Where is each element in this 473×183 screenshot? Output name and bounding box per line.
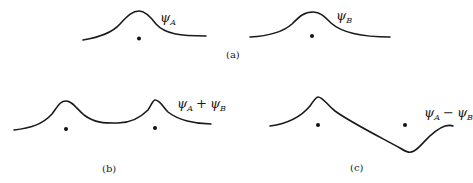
sum-label: ψA+ψB <box>177 96 226 113</box>
panel-b-sum: ψA+ψB <box>14 96 226 131</box>
panel-a-psi-b: ψB <box>250 8 390 38</box>
nucleus-a-dot <box>137 37 141 41</box>
nucleus-b-dot <box>153 126 157 130</box>
difference-label: ψA−ψB <box>424 105 473 122</box>
psi-b-curve <box>250 12 390 37</box>
panel-c-difference: ψA−ψB <box>270 97 473 152</box>
caption-a: (a) <box>226 49 240 60</box>
panel-a-psi-a: ψA <box>83 10 206 41</box>
psi-a-label: ψA <box>160 10 176 27</box>
caption-c: (c) <box>350 162 364 173</box>
caption-b: (b) <box>102 163 116 174</box>
nucleus-b-dot <box>310 34 314 38</box>
nucleus-a-dot <box>64 127 68 131</box>
wavefunction-diagram: ψA ψB (a) ψA+ψB (b) ψA−ψB (c) <box>0 0 473 183</box>
nucleus-a-dot <box>316 123 320 127</box>
nucleus-b-dot <box>403 123 407 127</box>
psi-b-label: ψB <box>336 8 352 25</box>
psi-a-curve <box>83 11 206 40</box>
